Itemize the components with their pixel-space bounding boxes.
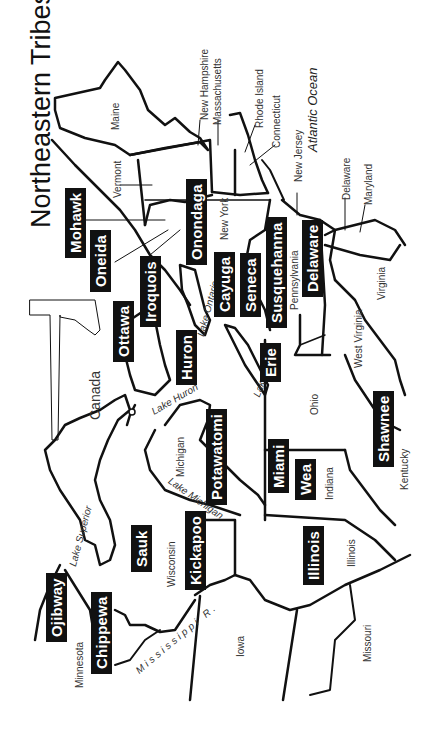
tribe-potawatomi: Potawatomi: [206, 409, 227, 505]
tribe-mohawk: Mohawk: [65, 188, 86, 258]
state-connecticut: Connecticut: [272, 95, 282, 148]
tribe-iroquois: Iroquois: [140, 256, 161, 327]
state-iowa: Iowa: [236, 636, 246, 657]
state-illinois: Illinois: [347, 539, 357, 567]
tribe-huron: Huron: [176, 330, 197, 385]
state-wisconsin: Wisconsin: [167, 541, 177, 587]
state-new-york-1: New York: [220, 198, 230, 240]
state-delaware: Delaware: [342, 158, 352, 200]
map-title: Northeastern Tribes: [28, 0, 55, 228]
state-new-hampshire: New Hampshire: [200, 49, 210, 120]
tribe-seneca: Seneca: [240, 253, 261, 317]
tribe-sauk: Sauk: [131, 525, 152, 572]
tribe-shawnee: Shawnee: [373, 391, 394, 467]
tribe-ojibway: Ojibway: [46, 573, 67, 642]
state-virginia: Virginia: [377, 267, 387, 300]
tribe-susquehanna: Susquehanna: [266, 217, 287, 328]
tribe-onondaga: Onondaga: [186, 179, 207, 265]
state-maryland: Maryland: [364, 164, 374, 205]
tribe-kickapoo: Kickapoo: [185, 511, 206, 590]
state-pennsylvania: Pennsylvania: [290, 251, 300, 310]
tribe-oneida: Oneida: [90, 230, 111, 292]
state-michigan: Michigan: [176, 437, 186, 477]
state-new-jersey: New Jersey: [294, 130, 304, 182]
state-vermont: Vermont: [113, 161, 123, 198]
region-canada: Canada: [88, 371, 102, 420]
tribe-chippewa: Chippewa: [91, 592, 112, 674]
state-minnesota: Minnesota: [75, 642, 85, 688]
tribe-ottawa: Ottawa: [113, 301, 134, 362]
state-rhode-island: Rhode Island: [255, 69, 265, 128]
tribe-wea: Wea: [295, 459, 316, 500]
state-missouri: Missouri: [363, 625, 373, 662]
state-indiana: Indiana: [325, 467, 335, 500]
state-ohio: Ohio: [310, 394, 320, 415]
maine-outline: [55, 62, 208, 155]
tribe-illinois: Illinois: [303, 526, 324, 585]
state-west-virginia: West Virginia: [354, 309, 364, 368]
ocean-label: Atlantic Ocean: [306, 67, 319, 152]
state-maine: Maine: [111, 103, 121, 130]
state-kentucky: Kentucky: [400, 449, 410, 490]
tribe-miami: Miami: [268, 439, 289, 493]
northeastern-tribes-map: Northeastern Tribes Atlantic Ocean Lake …: [0, 0, 445, 749]
state-massachusetts: Massachusetts: [213, 58, 223, 125]
tribe-delaware: Delaware: [302, 220, 323, 297]
tribe-cayuga: Cayuga: [214, 252, 235, 317]
tribe-erie: Erie: [260, 343, 281, 382]
